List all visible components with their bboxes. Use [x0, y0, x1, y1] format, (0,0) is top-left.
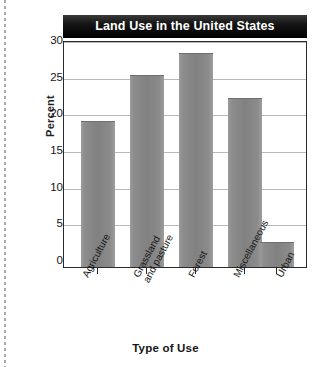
bar-chart-figure: Land Use in the United States Percent 30…: [0, 0, 331, 367]
y-tick-label-15: 15: [41, 145, 63, 157]
y-axis-ticks: 30 25 20 15 10 5 0: [33, 41, 63, 268]
y-tick-label-10: 10: [41, 182, 63, 194]
chart-title: Land Use in the United States: [95, 20, 274, 33]
chart-title-banner: Land Use in the United States: [63, 15, 307, 38]
y-tick-label-5: 5: [41, 218, 63, 230]
x-axis-labels: Agriculture Grassland and pasture Forest…: [0, 268, 331, 338]
x-axis-title: Type of Use: [0, 342, 331, 354]
bar-forest: [179, 53, 213, 267]
y-tick-label-0: 0: [41, 255, 63, 267]
y-tick-label-20: 20: [41, 108, 63, 120]
y-tick-label-25: 25: [41, 72, 63, 84]
y-tick-label-30: 30: [41, 35, 63, 47]
plot-area-frame: [63, 41, 307, 268]
